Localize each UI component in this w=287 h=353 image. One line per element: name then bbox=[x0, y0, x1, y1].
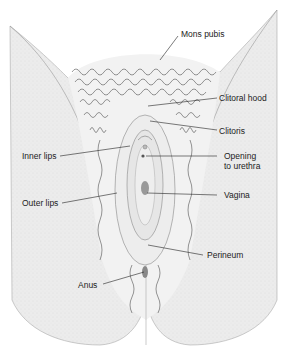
label-mons-pubis: Mons pubis bbox=[181, 29, 224, 39]
label-anus: Anus bbox=[78, 280, 97, 290]
anatomy-illustration bbox=[0, 0, 287, 353]
label-clitoris: Clitoris bbox=[219, 126, 245, 136]
label-clitoral-hood: Clitoral hood bbox=[219, 93, 267, 103]
label-outer-lips: Outer lips bbox=[22, 198, 58, 208]
label-inner-lips: Inner lips bbox=[22, 151, 57, 161]
label-opening-urethra-line2: to urethra bbox=[224, 161, 260, 171]
label-perineum: Perineum bbox=[207, 250, 243, 260]
label-opening-urethra-line1: Opening bbox=[224, 151, 256, 161]
anatomy-diagram: Mons pubis Clitoral hood Clitoris Inner … bbox=[0, 0, 287, 353]
label-vagina: Vagina bbox=[224, 190, 250, 200]
